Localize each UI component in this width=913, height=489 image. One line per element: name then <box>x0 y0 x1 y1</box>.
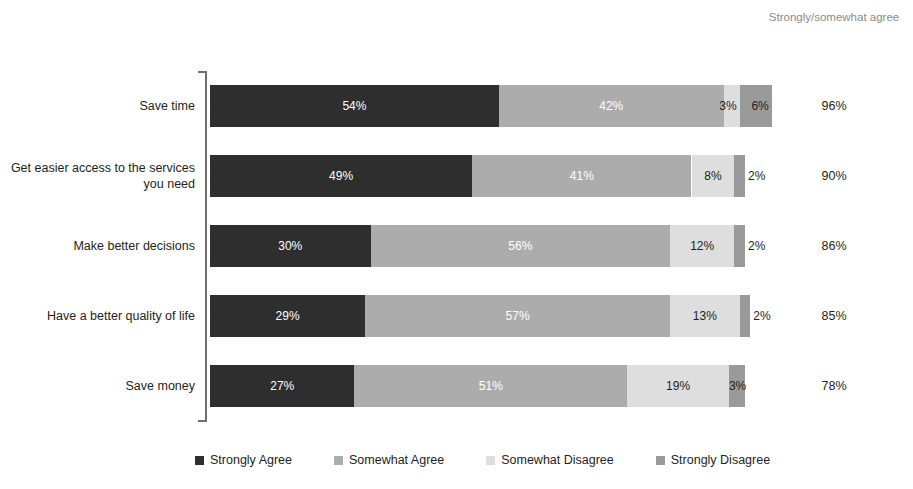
bar-segment-value: 3% <box>729 379 745 393</box>
table-row: Make better decisions30%56%12%2%86% <box>0 211 913 281</box>
bar-segment-value: 56% <box>371 239 671 253</box>
bar-segment-value: 30% <box>210 239 371 253</box>
stacked-bar-chart: Strongly/somewhat agree Save time54%42%3… <box>0 0 913 489</box>
table-row: Have a better quality of life29%57%13%2%… <box>0 281 913 351</box>
bar-segment-somewhat-disagree[interactable]: 3% <box>724 85 740 127</box>
bar-segment-strongly-agree[interactable]: 49% <box>210 155 472 197</box>
stacked-bar: 30%56%12%2% <box>210 225 745 267</box>
legend-item-strongly-disagree[interactable]: Strongly Disagree <box>656 453 770 467</box>
bar-segment-somewhat-agree[interactable]: 57% <box>365 295 670 337</box>
category-label: Save money <box>5 378 195 394</box>
legend-swatch-icon <box>195 456 204 465</box>
bar-segment-somewhat-disagree[interactable]: 19% <box>627 365 729 407</box>
legend-item-strongly-agree[interactable]: Strongly Agree <box>195 453 292 467</box>
bar-segment-value: 19% <box>627 379 729 393</box>
legend-item-label: Strongly Disagree <box>671 453 770 467</box>
bar-segment-somewhat-agree[interactable]: 41% <box>472 155 691 197</box>
row-total-value: 86% <box>760 239 908 253</box>
legend-item-label: Strongly Agree <box>210 453 292 467</box>
bar-segment-strongly-disagree[interactable]: 2% <box>740 295 751 337</box>
chart-legend: Strongly AgreeSomewhat AgreeSomewhat Dis… <box>195 448 795 472</box>
legend-swatch-icon <box>656 456 665 465</box>
category-label: Make better decisions <box>5 238 195 254</box>
bar-segment-strongly-agree[interactable]: 54% <box>210 85 499 127</box>
legend-item-somewhat-agree[interactable]: Somewhat Agree <box>334 453 444 467</box>
legend-item-somewhat-disagree[interactable]: Somewhat Disagree <box>486 453 614 467</box>
row-total-value: 78% <box>760 379 908 393</box>
stacked-bar: 54%42%3%6% <box>210 85 745 127</box>
bar-segment-strongly-agree[interactable]: 29% <box>210 295 365 337</box>
bar-segment-strongly-agree[interactable]: 27% <box>210 365 354 407</box>
category-label: Have a better quality of life <box>5 308 195 324</box>
stacked-bar: 49%41%8%2% <box>210 155 745 197</box>
stacked-bar: 29%57%13%2% <box>210 295 745 337</box>
stacked-bar: 27%51%19%3% <box>210 365 745 407</box>
legend-item-label: Somewhat Disagree <box>501 453 614 467</box>
bar-segment-value: 42% <box>499 99 724 113</box>
row-total-value: 96% <box>760 99 908 113</box>
bar-segment-value: 12% <box>670 239 734 253</box>
bar-segment-value: 13% <box>670 309 740 323</box>
legend-item-label: Somewhat Agree <box>349 453 444 467</box>
bar-segment-somewhat-disagree[interactable]: 8% <box>692 155 735 197</box>
bar-segment-somewhat-disagree[interactable]: 13% <box>670 295 740 337</box>
bar-segment-value: 57% <box>365 309 670 323</box>
bar-segment-value: 41% <box>472 169 691 183</box>
plot-area: Save time54%42%3%6%96%Get easier access … <box>0 0 913 489</box>
bar-segment-value: 29% <box>210 309 365 323</box>
table-row: Save money27%51%19%3%78% <box>0 351 913 421</box>
bar-segment-somewhat-agree[interactable]: 51% <box>354 365 627 407</box>
row-total-value: 85% <box>760 309 908 323</box>
table-row: Save time54%42%3%6%96% <box>0 71 913 141</box>
legend-swatch-icon <box>486 456 495 465</box>
bar-segment-somewhat-disagree[interactable]: 12% <box>670 225 734 267</box>
category-label: Get easier access to the services you ne… <box>5 160 195 192</box>
bar-segment-somewhat-agree[interactable]: 42% <box>499 85 724 127</box>
row-total-value: 90% <box>760 169 908 183</box>
bar-segment-strongly-agree[interactable]: 30% <box>210 225 371 267</box>
bar-segment-strongly-disagree[interactable]: 2% <box>734 155 745 197</box>
bar-segment-value: 49% <box>210 169 472 183</box>
bar-segment-somewhat-agree[interactable]: 56% <box>371 225 671 267</box>
bar-segment-value: 8% <box>692 169 735 183</box>
table-row: Get easier access to the services you ne… <box>0 141 913 211</box>
bar-segment-value: 27% <box>210 379 354 393</box>
category-label: Save time <box>5 98 195 114</box>
bar-segment-value: 51% <box>354 379 627 393</box>
legend-swatch-icon <box>334 456 343 465</box>
bar-segment-value: 54% <box>210 99 499 113</box>
bar-segment-strongly-disagree[interactable]: 3% <box>729 365 745 407</box>
bar-segment-strongly-disagree[interactable]: 2% <box>734 225 745 267</box>
